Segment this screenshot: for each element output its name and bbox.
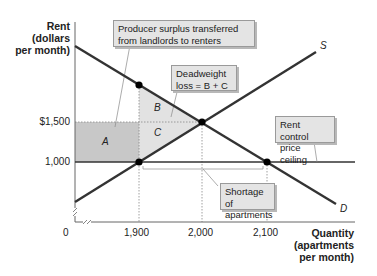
y-tick-1500: $1,500 bbox=[30, 116, 70, 127]
y-axis-break bbox=[73, 208, 77, 216]
callout-line: Shortage of bbox=[225, 186, 270, 209]
x-title-line: (apartments bbox=[290, 239, 354, 251]
x-tick-1900: 1,900 bbox=[124, 227, 149, 238]
region-c-label: C bbox=[154, 127, 161, 138]
x-axis-break bbox=[83, 220, 91, 224]
shortage-bracket bbox=[143, 166, 263, 169]
x-title-line: per month) bbox=[290, 251, 354, 263]
x-axis-title: Quantity (apartments per month) bbox=[290, 227, 354, 263]
y-axis-title: Rent (dollars per month) bbox=[6, 20, 70, 56]
callout-line: apartments bbox=[225, 209, 270, 221]
shortage-callout: Shortage of apartments bbox=[220, 183, 275, 210]
callout-line: price ceiling bbox=[280, 142, 330, 165]
x-tick-2100: 2,100 bbox=[253, 227, 278, 238]
callout-line: Rent control bbox=[280, 119, 330, 142]
producer-surplus-callout: Producer surplus transferred from landlo… bbox=[113, 20, 255, 47]
point-demand-1900 bbox=[135, 81, 142, 88]
point-equilibrium bbox=[198, 118, 205, 125]
x-tick-2000: 2,000 bbox=[188, 227, 213, 238]
price-ceiling-callout: Rent control price ceiling bbox=[275, 116, 335, 143]
point-supply-1900 bbox=[135, 158, 142, 165]
demand-label: D bbox=[340, 203, 347, 214]
callout-line: from landlords to renters bbox=[118, 35, 250, 47]
y-tick-1000: 1,000 bbox=[30, 156, 70, 167]
y-title-line: per month) bbox=[6, 44, 70, 56]
y-title-line: (dollars bbox=[6, 32, 70, 44]
y-title-line: Rent bbox=[6, 20, 70, 32]
x-title-line: Quantity bbox=[290, 227, 354, 239]
region-a-label: A bbox=[102, 136, 109, 147]
supply-label: S bbox=[320, 40, 327, 51]
callout-line: loss = B + C bbox=[176, 80, 232, 92]
callout-line: Producer surplus transferred bbox=[118, 23, 250, 35]
deadweight-loss-callout: Deadweight loss = B + C bbox=[171, 65, 237, 91]
region-b-label: B bbox=[154, 102, 161, 113]
callout-line: Deadweight bbox=[176, 68, 232, 80]
origin-label: 0 bbox=[63, 227, 69, 238]
point-demand-2100 bbox=[263, 158, 270, 165]
